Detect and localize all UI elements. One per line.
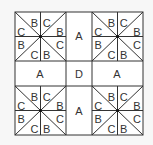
svg-text:C: C bbox=[17, 26, 25, 38]
svg-text:B: B bbox=[17, 39, 24, 51]
svg-text:B: B bbox=[43, 123, 50, 135]
svg-text:B: B bbox=[17, 113, 24, 125]
svg-text:B: B bbox=[56, 26, 63, 38]
sashing-bottom-label: A bbox=[75, 105, 83, 117]
svg-text:B: B bbox=[133, 26, 140, 38]
svg-text:C: C bbox=[94, 100, 102, 112]
svg-text:C: C bbox=[120, 91, 128, 103]
svg-text:C: C bbox=[30, 49, 38, 61]
svg-text:C: C bbox=[56, 39, 64, 51]
svg-text:B: B bbox=[56, 100, 63, 112]
svg-text:B: B bbox=[108, 91, 115, 103]
svg-text:C: C bbox=[17, 100, 25, 112]
svg-text:C: C bbox=[133, 39, 141, 51]
svg-text:C: C bbox=[94, 26, 102, 38]
svg-text:C: C bbox=[30, 123, 38, 135]
svg-text:B: B bbox=[94, 39, 101, 51]
center-label: D bbox=[75, 68, 83, 80]
sashing-right-label: A bbox=[113, 68, 121, 80]
quilt-diagram: BCCBBCCBBCCBBCCBBCCBBCCBBCCBBCCB A A D A… bbox=[0, 0, 153, 145]
sashing-top-label: A bbox=[75, 30, 83, 42]
svg-text:B: B bbox=[31, 17, 38, 29]
sashing-left-label: A bbox=[36, 68, 44, 80]
svg-text:B: B bbox=[43, 49, 50, 61]
svg-text:B: B bbox=[120, 123, 127, 135]
svg-text:B: B bbox=[133, 100, 140, 112]
svg-text:C: C bbox=[43, 91, 51, 103]
svg-text:C: C bbox=[107, 49, 115, 61]
svg-text:C: C bbox=[56, 113, 64, 125]
svg-text:C: C bbox=[120, 17, 128, 29]
svg-text:C: C bbox=[43, 17, 51, 29]
svg-text:B: B bbox=[108, 17, 115, 29]
svg-text:B: B bbox=[31, 91, 38, 103]
svg-text:B: B bbox=[120, 49, 127, 61]
svg-text:B: B bbox=[94, 113, 101, 125]
svg-text:C: C bbox=[133, 113, 141, 125]
svg-text:C: C bbox=[107, 123, 115, 135]
